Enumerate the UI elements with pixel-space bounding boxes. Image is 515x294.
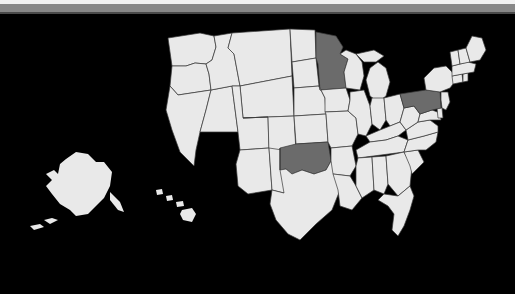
state-hawaii-oahu[interactable] bbox=[166, 195, 173, 201]
state-missouri[interactable] bbox=[325, 111, 358, 148]
state-hawaii-maui[interactable] bbox=[176, 201, 184, 207]
map-viewer bbox=[0, 0, 515, 294]
us-map-svg[interactable] bbox=[0, 14, 515, 294]
state-rhode-island[interactable] bbox=[463, 73, 468, 82]
alaska-aleutian-islands[interactable] bbox=[44, 218, 58, 224]
window-title-bar[interactable] bbox=[0, 4, 515, 12]
state-new-york[interactable] bbox=[424, 66, 456, 92]
state-delaware[interactable] bbox=[437, 108, 443, 118]
state-alabama[interactable] bbox=[372, 156, 388, 194]
state-north-dakota[interactable] bbox=[290, 29, 316, 62]
state-south-dakota[interactable] bbox=[292, 58, 319, 88]
state-indiana[interactable] bbox=[370, 98, 386, 130]
alaska-aleutian-islands-2[interactable] bbox=[30, 224, 44, 230]
state-hawaii-big-island[interactable] bbox=[180, 208, 196, 222]
state-michigan[interactable] bbox=[366, 62, 390, 102]
state-oregon[interactable] bbox=[170, 63, 211, 95]
state-kansas[interactable] bbox=[294, 114, 328, 144]
state-new-jersey[interactable] bbox=[441, 92, 450, 110]
map-canvas[interactable] bbox=[0, 14, 515, 294]
state-washington[interactable] bbox=[168, 33, 216, 66]
state-maine[interactable] bbox=[466, 36, 486, 62]
state-hawaii-kauai[interactable] bbox=[156, 189, 163, 195]
state-arkansas[interactable] bbox=[331, 146, 356, 176]
state-arizona[interactable] bbox=[236, 148, 272, 194]
state-minnesota[interactable] bbox=[316, 32, 348, 90]
alaska-panhandle[interactable] bbox=[110, 192, 124, 212]
state-oklahoma[interactable] bbox=[280, 142, 331, 174]
state-mississippi[interactable] bbox=[356, 157, 374, 198]
state-alaska[interactable] bbox=[46, 152, 112, 216]
